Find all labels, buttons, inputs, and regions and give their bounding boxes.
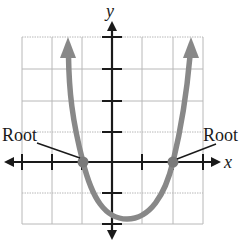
curve-left-arrow-icon: [60, 37, 76, 58]
right-root-label: Root: [203, 125, 238, 145]
parabola-graph: y x Root Root: [0, 0, 250, 246]
right-root-callout-line: [177, 144, 216, 159]
y-axis-up-arrow-icon: [107, 21, 117, 31]
x-axis-label: x: [223, 152, 232, 172]
y-axis-label: y: [104, 1, 114, 21]
curve-right-arrow-icon: [183, 37, 199, 58]
parabola-curve: [60, 37, 199, 219]
x-axis-right-arrow-icon: [211, 157, 221, 167]
x-axis-left-arrow-icon: [4, 157, 14, 167]
left-root-label: Root: [2, 125, 37, 145]
left-root-callout-line: [37, 143, 80, 158]
y-axis-down-arrow-icon: [107, 230, 117, 240]
right-root-point: [168, 157, 179, 168]
